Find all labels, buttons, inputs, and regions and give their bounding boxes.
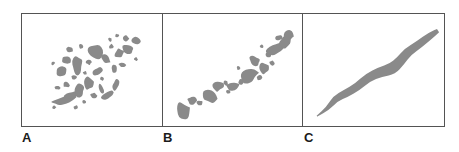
- panel-b: [162, 14, 302, 126]
- patch: [111, 78, 120, 91]
- patch: [83, 76, 95, 90]
- patch: [226, 90, 230, 94]
- panel-b-plot: [163, 14, 302, 126]
- patch: [269, 61, 274, 66]
- panel-a: [22, 14, 162, 126]
- panel-c: [302, 14, 443, 126]
- patch: [187, 97, 197, 105]
- patch: [91, 66, 104, 77]
- patch: [90, 93, 97, 98]
- patch: [123, 35, 129, 41]
- patch: [71, 75, 77, 79]
- patch: [134, 57, 138, 61]
- panel-a-blob-group: [51, 34, 142, 110]
- patch: [100, 77, 104, 81]
- panel-a-plot: [22, 14, 162, 126]
- patch: [63, 81, 70, 87]
- patch: [240, 67, 261, 84]
- patch: [74, 105, 78, 109]
- patch: [197, 101, 203, 106]
- figure-container: A B C: [0, 0, 459, 152]
- panel-label-c: C: [304, 130, 314, 146]
- patch: [52, 105, 56, 109]
- panel-label-a: A: [22, 130, 32, 146]
- patch: [257, 61, 271, 75]
- patch: [112, 65, 117, 73]
- patch: [130, 35, 141, 46]
- panel-c-continuous-band: [317, 29, 439, 117]
- patch: [109, 44, 114, 49]
- patch: [260, 45, 264, 48]
- patch: [82, 100, 86, 104]
- patch: [247, 55, 260, 67]
- patch: [66, 47, 73, 52]
- patch: [54, 65, 68, 78]
- patch: [97, 83, 105, 94]
- panel-b-blob-group: [173, 29, 295, 122]
- panel-label-b: B: [163, 130, 173, 146]
- patch: [86, 60, 92, 65]
- patch: [61, 54, 73, 65]
- panel-c-plot: [303, 14, 443, 126]
- patch: [115, 34, 119, 37]
- patch: [119, 63, 127, 67]
- patch: [108, 38, 111, 42]
- patch: [70, 56, 83, 76]
- patch: [79, 44, 83, 49]
- patch: [237, 66, 240, 70]
- patch: [211, 79, 226, 93]
- patch: [51, 62, 55, 65]
- patch: [257, 75, 263, 80]
- panel-frame: [21, 13, 445, 127]
- patch: [55, 86, 61, 89]
- patch: [83, 71, 87, 75]
